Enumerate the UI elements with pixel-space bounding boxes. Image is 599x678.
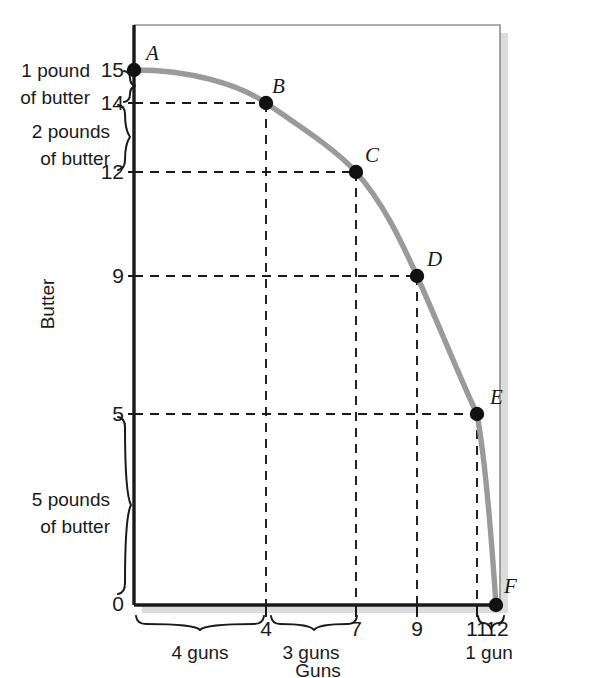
y-axis-title: Butter <box>37 274 59 334</box>
data-point-F <box>489 598 503 612</box>
brace-five-pounds <box>118 417 131 594</box>
y-tick-label-0: 0 <box>92 592 124 616</box>
point-label-C: C <box>365 144 379 168</box>
annotation-two-pounds-line1: 2 pounds <box>0 121 110 142</box>
point-label-A: A <box>146 42 159 66</box>
annotation-four-guns: 4 guns <box>140 642 260 663</box>
y-tick-label-14: 14 <box>92 91 124 115</box>
point-label-F: F <box>504 575 517 599</box>
brace-four-guns <box>136 616 264 630</box>
x-tick-label-12: 12 <box>481 617 513 641</box>
x-tick-label-4: 4 <box>250 617 282 641</box>
data-point-E <box>470 407 484 421</box>
annotation-five-pounds-line1: 5 pounds <box>0 489 110 510</box>
y-tick-label-5: 5 <box>92 402 124 426</box>
point-label-E: E <box>490 386 503 410</box>
x-axis-title: Guns <box>268 660 368 678</box>
annotation-one-gun: 1 gun <box>429 642 549 663</box>
point-label-B: B <box>272 75 285 99</box>
ppf-chart-figure: 15 14 12 9 5 0 4 7 9 11 12 A B C D E F 1… <box>0 0 599 678</box>
plot-area-background <box>134 25 500 605</box>
y-tick-label-9: 9 <box>92 264 124 288</box>
data-point-C <box>349 165 363 179</box>
x-tick-label-9: 9 <box>401 617 433 641</box>
data-point-D <box>410 269 424 283</box>
annotation-one-pound-line1: 1 pound <box>0 60 90 81</box>
annotation-one-pound-line2: of butter <box>0 87 90 108</box>
y-tick-label-15: 15 <box>92 58 124 82</box>
annotation-two-pounds-line2: of butter <box>0 148 110 169</box>
annotation-five-pounds-line2: of butter <box>0 516 110 537</box>
x-tick-label-7: 7 <box>340 617 372 641</box>
point-label-D: D <box>427 248 442 272</box>
